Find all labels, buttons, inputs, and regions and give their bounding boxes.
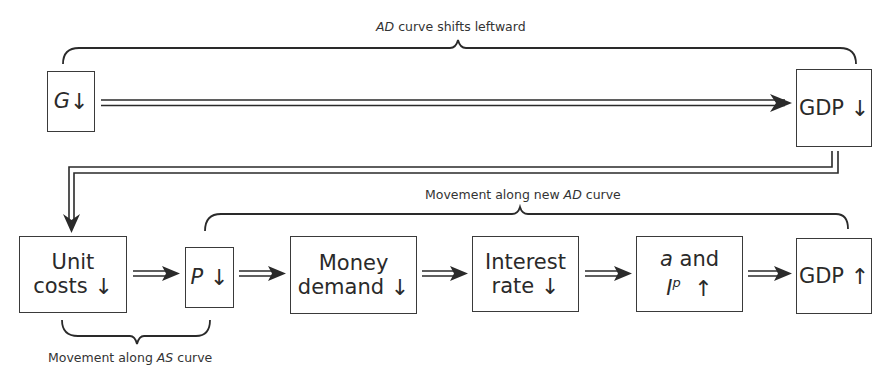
box-unit-costs: Unit costs ↓	[19, 236, 127, 313]
middle-brace	[205, 207, 848, 231]
box-gdp-up: GDP ↑	[796, 238, 872, 314]
down-arrow-icon: ↓	[391, 276, 409, 300]
double-arrow-unit-costs-to-price	[133, 266, 180, 281]
down-arrow-icon: ↓	[70, 90, 88, 114]
box-interest-rate: Interest rate ↓	[472, 236, 579, 312]
double-arrow-money-demand-to-interest-rate	[422, 266, 468, 281]
double-arrow-interest-rate-to-a-and-ip	[585, 266, 632, 281]
label-movement-along-as-curve: Movement along AS curve	[48, 350, 212, 365]
bottom-brace	[62, 320, 210, 344]
down-arrow-icon: ↓	[94, 275, 112, 299]
double-arrow-g-to-gdp	[101, 94, 792, 112]
up-arrow-icon: ↑	[694, 277, 712, 301]
top-brace	[63, 40, 856, 64]
double-arrow-price-to-money-demand	[239, 266, 286, 281]
box-a-and-planned-investment: a and Ip ↑	[636, 236, 743, 312]
box-price-level: P ↓	[185, 247, 234, 308]
box-money-demand: Money demand ↓	[290, 236, 417, 314]
double-arrow-a-and-ip-to-gdp	[748, 266, 792, 281]
down-arrow-icon: ↓	[541, 275, 559, 299]
label-ad-curve-shifts-leftward: AD curve shifts leftward	[376, 19, 526, 34]
down-arrow-icon: ↓	[210, 266, 228, 290]
down-arrow-icon: ↓	[851, 97, 869, 121]
box-government-spending: G↓	[47, 71, 95, 132]
label-movement-along-new-ad-curve: Movement along new AD curve	[425, 187, 621, 202]
up-arrow-icon: ↑	[851, 265, 869, 289]
box-gdp-down: GDP ↓	[796, 69, 872, 147]
